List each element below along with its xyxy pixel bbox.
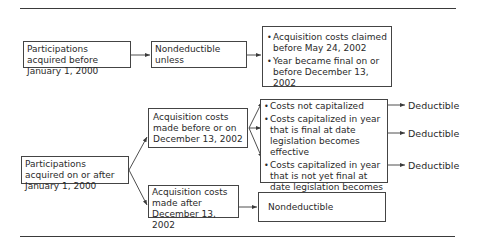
capitalization-item: Costs not capitalized bbox=[264, 101, 384, 112]
capitalization-item: Costs capitalized in year that is final … bbox=[264, 114, 384, 158]
exception-item: Acquisition costs claimed before May 24,… bbox=[267, 32, 387, 54]
node-exceptions-list: Acquisition costs claimed before May 24,… bbox=[262, 26, 392, 87]
node-costs-before-dec-13-2002: Acquisition costs made before or on Dece… bbox=[148, 108, 248, 148]
exception-item: Year became final on or before December … bbox=[267, 56, 387, 89]
node-text: Acquisition costs made before or on Dece… bbox=[153, 112, 243, 144]
node-text: Participations acquired before January 1… bbox=[27, 44, 98, 76]
node-nondeductible-unless: Nondeductible unless bbox=[151, 41, 247, 68]
node-text: Nondeductible bbox=[268, 202, 333, 213]
node-participations-after-2000: Participations acquired on or after Janu… bbox=[21, 156, 129, 184]
node-capitalization-list: Costs not capitalized Costs capitalized … bbox=[260, 99, 388, 183]
outcome-deductible-3: Deductible bbox=[408, 160, 459, 171]
node-participations-before-2000: Participations acquired before January 1… bbox=[23, 41, 131, 68]
node-nondeductible: Nondeductible bbox=[258, 192, 386, 222]
node-costs-after-dec-13-2002: Acquisition costs made after December 13… bbox=[148, 185, 239, 218]
outcome-deductible-1: Deductible bbox=[408, 100, 459, 111]
outcome-deductible-2: Deductible bbox=[408, 128, 459, 139]
node-text: Nondeductible unless bbox=[155, 44, 243, 66]
